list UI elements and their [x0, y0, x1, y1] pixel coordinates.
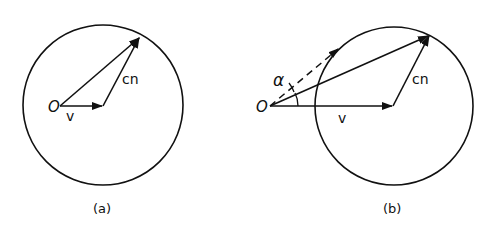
- origin-label-a: O: [48, 98, 60, 116]
- vector-resultant-b: [270, 36, 428, 106]
- alpha-label: α: [273, 70, 284, 90]
- caption-a: (a): [93, 201, 111, 216]
- cn-label-b: cn: [412, 71, 429, 87]
- velocity-diagram: O v cn (a) O α v cn (b): [0, 0, 487, 225]
- caption-b: (b): [383, 201, 401, 216]
- panel-a: O v cn (a): [23, 25, 183, 216]
- v-label-b: v: [338, 110, 346, 126]
- cn-label-a: cn: [122, 71, 139, 87]
- panel-b: O α v cn (b): [256, 27, 473, 216]
- origin-label-b: O: [256, 98, 268, 116]
- angle-arc-alpha: [295, 93, 298, 106]
- angle-arc-alpha-outer: [289, 83, 294, 92]
- v-label-a: v: [66, 108, 74, 124]
